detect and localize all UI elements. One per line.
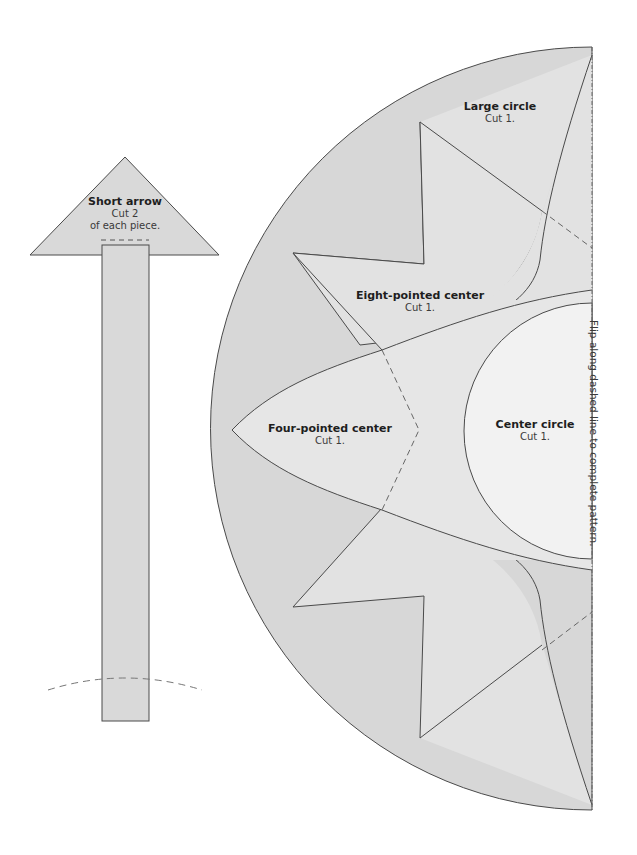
eight-pointed-label: Eight-pointed center Cut 1. <box>345 290 495 314</box>
eight-pointed-title: Eight-pointed center <box>345 290 495 302</box>
eight-pointed-cut: Cut 1. <box>345 302 495 314</box>
large-circle-title: Large circle <box>450 101 550 113</box>
short-arrow-piece <box>30 157 219 721</box>
fold-note: Flip along dashed line to complete patte… <box>588 320 600 546</box>
short-arrow-cut: Cut 2 <box>60 208 190 220</box>
short-arrow-label: Short arrow Cut 2 of each piece. <box>60 196 190 232</box>
center-circle-cut: Cut 1. <box>485 431 585 443</box>
short-arrow-each: of each piece. <box>60 220 190 232</box>
short-arrow-title: Short arrow <box>60 196 190 208</box>
four-pointed-cut: Cut 1. <box>260 435 400 447</box>
four-pointed-label: Four-pointed center Cut 1. <box>260 423 400 447</box>
large-circle-label: Large circle Cut 1. <box>450 101 550 125</box>
large-circle-cut: Cut 1. <box>450 113 550 125</box>
four-pointed-title: Four-pointed center <box>260 423 400 435</box>
center-circle-label: Center circle Cut 1. <box>485 419 585 443</box>
center-circle-title: Center circle <box>485 419 585 431</box>
